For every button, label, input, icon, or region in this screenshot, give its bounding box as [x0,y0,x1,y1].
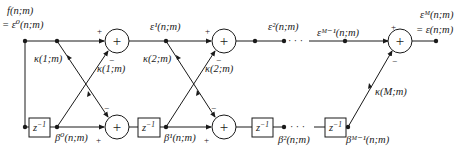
minus-sign: − [104,103,109,113]
input-node [23,39,27,43]
coefficient-kM: κ(M;m) [375,86,407,98]
forward-label-1: ε¹(n;m) [150,21,181,33]
output-label: εᴹ(n;m) [420,9,454,21]
sum-symbol: + [113,33,121,49]
forward-node-2 [282,39,286,43]
coefficient-k1-bottom: κ(1;m) [97,63,126,75]
cross-line-k1-top [57,41,108,117]
delay-input-node [23,125,27,129]
backward-node-2 [282,125,286,129]
lattice-filter-diagram: z−1 + + + − − + z−1 + + + − − + · · · z−… [0,0,465,156]
output-label-eq: = ε(n;m) [416,24,454,36]
minus-sign: − [392,56,397,66]
forward-node-M-1 [343,39,347,43]
gain-arrow [176,55,181,60]
input-label: f(n;m) [7,5,34,17]
coefficient-k2-top: κ(2;m) [143,53,172,65]
coefficient-k2-bottom: κ(2;m) [205,63,234,75]
ellipsis-top: · · · [288,35,303,46]
plus-sign: + [391,22,396,32]
forward-label-2: ε²(n;m) [268,21,299,33]
gain-arrow [67,55,72,60]
forward-node-2a [253,39,257,43]
forward-label-M-1: εᴹ⁻¹(n;m) [317,27,360,39]
sum-symbol: + [113,119,121,135]
backward-label-2: β²(n;m) [277,134,310,146]
sum-symbol: + [220,33,228,49]
backward-label-0: β⁰(n;m) [54,132,88,144]
sum-symbol: + [396,33,404,49]
plus-sign: + [96,135,101,145]
gain-arrow [87,91,91,97]
output-node [434,39,438,43]
sum-symbol: + [220,119,228,135]
backward-label-M-1: βᴹ⁻¹(n;m) [345,134,390,146]
backward-label-1: β¹(n;m) [163,132,196,144]
plus-sign: + [204,135,209,145]
plus-sign: + [205,26,210,36]
input-label-eq: = ε⁰(n;m) [2,19,44,31]
cross-line-k2-top [166,41,215,117]
plus-sign: + [97,26,102,36]
coefficient-k1-top: κ(1;m) [34,53,63,65]
minus-sign: − [211,103,216,113]
ellipsis-bottom: · · · [290,121,305,132]
